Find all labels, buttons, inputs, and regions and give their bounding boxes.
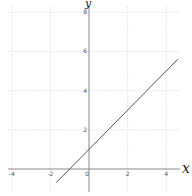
x-axis-title: x [182,160,190,176]
x-tick-label: 4 [164,170,168,177]
x-tick-label: 0 [85,170,89,177]
x-tick-label: -2 [47,170,53,177]
x-tick-label: 2 [126,170,130,177]
axes [8,6,180,192]
series-line [56,59,178,183]
y-tick-label: 6 [83,47,87,54]
y-tick-label: 4 [83,87,87,94]
y-axis-title: y [84,0,92,10]
grid-lines [8,6,180,192]
x-tick-label: -4 [9,170,15,177]
y-tick-label: 2 [83,126,87,133]
line-chart: -4-20242468 x y [0,0,192,196]
data-series [56,59,178,183]
